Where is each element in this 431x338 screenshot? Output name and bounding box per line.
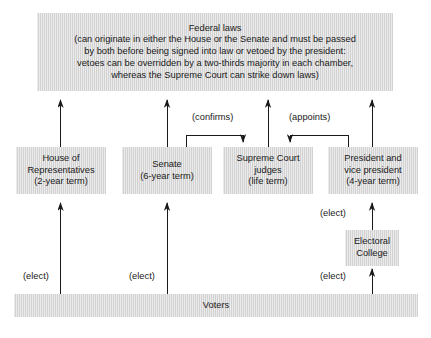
edge-president-appoints-supreme-court: [290, 135, 348, 147]
node-supreme-line-2: judges: [225, 165, 311, 177]
node-federal-laws-line-3: by both before being signed into law or …: [39, 46, 391, 58]
node-senate-line-1: Senate: [124, 159, 210, 171]
node-house-of-representatives: House of Representatives (2-year term): [16, 147, 106, 194]
node-voters-line-1: Voters: [16, 300, 416, 312]
node-electoral-college: Electoral College: [345, 230, 399, 266]
node-voters: Voters: [14, 294, 418, 317]
edge-label-elect-electoral-college: (elect): [320, 271, 346, 281]
node-federal-laws-line-2: (can originate in either the House or th…: [39, 34, 391, 46]
node-president-line-2: vice president: [330, 165, 416, 177]
node-electoral-line-2: College: [347, 248, 397, 260]
node-federal-laws-line-5: whereas the Supreme Court can strike dow…: [39, 70, 391, 82]
node-senate-line-2: (6-year term): [124, 171, 210, 183]
node-supreme-line-3: (life term): [225, 176, 311, 188]
node-federal-laws-line-1: Federal laws: [39, 23, 391, 35]
node-senate: Senate (6-year term): [122, 147, 212, 194]
node-president-line-1: President and: [330, 153, 416, 165]
node-president-and-vice-president: President and vice president (4-year ter…: [328, 147, 418, 194]
node-house-line-3: (2-year term): [18, 176, 104, 188]
edge-label-elect-senate: (elect): [129, 271, 155, 281]
node-house-line-2: Representatives: [18, 165, 104, 177]
government-structure-diagram: Federal laws (can originate in either th…: [0, 0, 431, 338]
edge-label-appoints: (appoints): [289, 112, 330, 122]
edge-label-elect-president: (elect): [320, 208, 346, 218]
node-house-line-1: House of: [18, 153, 104, 165]
edge-senate-confirms-supreme-court: [186, 135, 243, 147]
edge-label-confirms: (confirms): [192, 112, 233, 122]
node-supreme-court-judges: Supreme Court judges (life term): [223, 147, 313, 194]
node-electoral-line-1: Electoral: [347, 236, 397, 248]
node-federal-laws-line-4: vetoes can be overridden by a two-thirds…: [39, 58, 391, 70]
node-president-line-3: (4-year term): [330, 176, 416, 188]
edge-label-elect-house: (elect): [23, 271, 49, 281]
node-federal-laws: Federal laws (can originate in either th…: [37, 13, 393, 91]
node-supreme-line-1: Supreme Court: [225, 153, 311, 165]
